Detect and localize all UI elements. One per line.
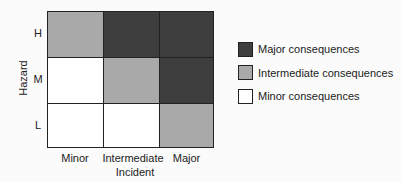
legend-item-intermediate: Intermediate consequences <box>238 65 393 81</box>
legend-item-major: Major consequences <box>238 41 393 57</box>
risk-matrix-grid <box>47 11 214 148</box>
minor-swatch-icon <box>238 89 253 104</box>
cell-l-minor <box>48 104 104 147</box>
cell-m-minor <box>48 58 104 104</box>
y-axis-title: Hazard <box>17 53 29 103</box>
legend-label-intermediate: Intermediate consequences <box>258 67 393 79</box>
cell-m-major <box>160 58 213 104</box>
cell-m-intermediate <box>104 58 160 104</box>
x-tick-major: Major <box>159 152 214 164</box>
legend-label-minor: Minor consequences <box>258 90 360 102</box>
cell-h-minor <box>48 12 104 58</box>
cell-h-intermediate <box>104 12 160 58</box>
y-tick-l: L <box>32 119 44 131</box>
x-tick-minor: Minor <box>47 152 103 164</box>
y-tick-m: M <box>32 73 44 85</box>
legend-item-minor: Minor consequences <box>238 88 393 104</box>
y-tick-h: H <box>32 27 44 39</box>
x-axis-title: Incident <box>110 166 160 178</box>
legend-label-major: Major consequences <box>258 43 360 55</box>
cell-l-major <box>160 104 213 147</box>
intermediate-swatch-icon <box>238 65 253 80</box>
cell-h-major <box>160 12 213 58</box>
cell-l-intermediate <box>104 104 160 147</box>
major-swatch-icon <box>238 42 253 57</box>
x-tick-intermediate: Intermediate <box>101 152 165 164</box>
legend: Major consequences Intermediate conseque… <box>238 41 393 112</box>
